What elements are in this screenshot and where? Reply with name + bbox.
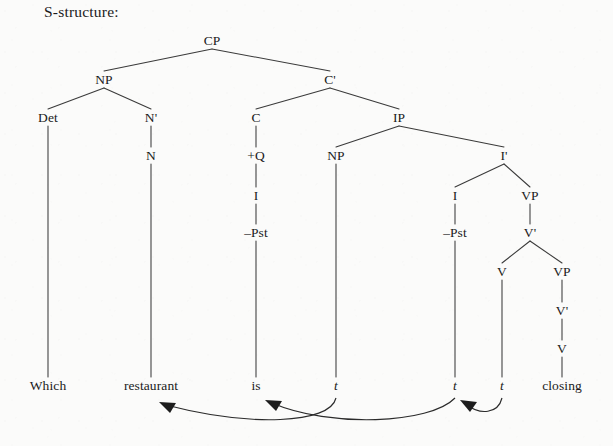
tree-node-cp: CP	[204, 34, 221, 48]
tree-node-i1: I	[254, 189, 259, 203]
tree-node-c: C	[251, 111, 260, 125]
tree-edge-cp-np1	[104, 49, 212, 71]
movement-arrow-layer	[159, 398, 502, 420]
tree-node-plusq: +Q	[247, 149, 265, 163]
tree-node-vp2: VP	[553, 265, 570, 279]
tree-edge-ip-ibar	[399, 126, 504, 147]
tree-edge-cp-cbar	[212, 49, 330, 71]
tree-node-w-restaurant: restaurant	[124, 379, 178, 393]
tree-node-vp1: VP	[521, 189, 538, 203]
tree-node-t2: t	[453, 379, 457, 393]
syntax-tree-svg	[0, 0, 613, 446]
tree-node-v2: V	[557, 342, 567, 356]
tree-node-det: Det	[38, 111, 58, 125]
tree-node-negpst2: –Pst	[443, 226, 467, 240]
tree-node-w-which: Which	[30, 379, 67, 393]
movement-arrow-i-to-c-movement	[272, 398, 455, 420]
tree-edge-layer	[48, 49, 562, 377]
tree-node-vbar2: V'	[556, 304, 568, 318]
tree-node-w-is: is	[251, 379, 260, 393]
tree-edge-vbar1-vp2	[530, 241, 562, 263]
tree-node-w-closing: closing	[542, 379, 582, 393]
tree-node-t1: t	[334, 379, 338, 393]
tree-node-ibar: I'	[500, 149, 507, 163]
tree-node-ip: IP	[393, 111, 405, 125]
tree-edge-cbar-ip	[330, 88, 399, 109]
movement-arrowhead-v-to-i-movement	[460, 400, 477, 412]
tree-node-np1: NP	[95, 73, 112, 87]
tree-edge-ibar-vp1	[504, 164, 530, 187]
tree-node-cbar: C'	[324, 73, 336, 87]
tree-node-np2: NP	[327, 149, 344, 163]
movement-arrowhead-wh-movement	[159, 402, 176, 413]
tree-node-v1: V	[497, 265, 507, 279]
tree-edge-ip-np2	[336, 126, 399, 147]
tree-edge-cbar-c	[256, 88, 330, 109]
tree-edge-vbar1-v1	[502, 241, 530, 263]
tree-edge-np1-nbar	[104, 88, 151, 109]
tree-node-i2: I	[453, 189, 458, 203]
movement-arrow-wh-movement	[166, 398, 336, 420]
tree-node-negpst1: –Pst	[244, 226, 268, 240]
tree-edge-ibar-i2	[455, 164, 504, 187]
tree-node-n: N	[146, 149, 156, 163]
diagram-canvas: S-structure: CPNPC'DetN'CIPN+QNPI'IIVP–P…	[0, 0, 613, 446]
tree-node-vbar1: V'	[524, 226, 536, 240]
tree-node-t3: t	[500, 379, 504, 393]
tree-edge-np1-det	[48, 88, 104, 109]
tree-node-nbar: N'	[145, 111, 157, 125]
